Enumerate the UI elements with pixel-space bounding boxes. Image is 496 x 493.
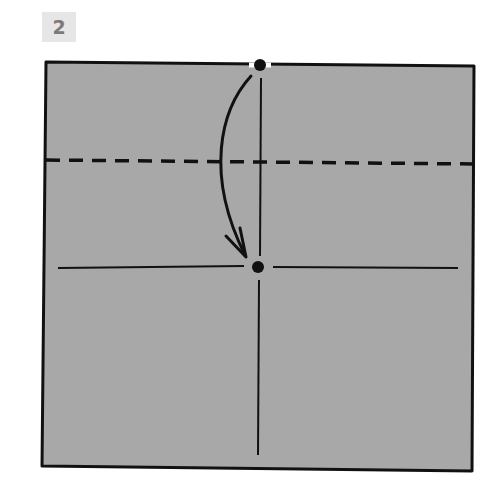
vertical-crease-upper [260,78,261,256]
horizontal-crease-right [273,267,458,268]
top-midpoint-dot [254,59,266,71]
vertical-crease-lower [258,280,259,455]
center-point-dot [252,261,264,273]
origami-diagram [0,0,496,493]
